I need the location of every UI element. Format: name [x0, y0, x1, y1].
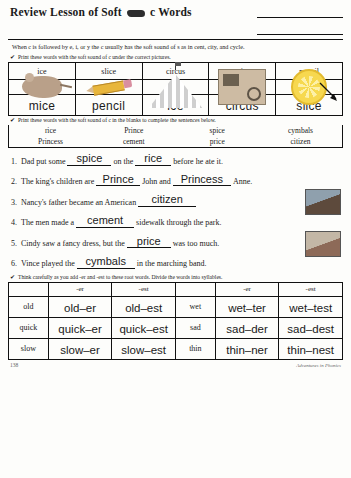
arrow-icon	[318, 82, 340, 104]
picture-answer[interactable]: pencil	[75, 95, 142, 116]
answer-blank[interactable]: rice	[135, 153, 171, 166]
date-line[interactable]	[257, 25, 343, 35]
picture-answer-text: mice	[29, 99, 56, 113]
picture-cell-carriage	[209, 80, 276, 95]
mouse-icon	[9, 80, 75, 94]
suffix-header-blank-right	[175, 282, 215, 296]
picture-cell-circus	[142, 80, 209, 95]
sentence-text-post: sidewalk through the park.	[136, 219, 221, 227]
suffix-answer-text: quick–er	[58, 323, 101, 335]
word-bank-row: rice Prince spice cymbals	[9, 125, 343, 136]
picture-cell-mouse	[9, 80, 76, 95]
suffix-row: quick quick–er quick–est sad sad–der sad…	[9, 317, 343, 338]
suffix-base-word: old	[9, 296, 49, 317]
suffix-answer-text: thin–ner	[226, 344, 268, 356]
direction-one: ✔ Print these words with the soft sound …	[8, 53, 343, 62]
checkmark-icon: ✔	[10, 54, 15, 60]
suffix-answer[interactable]: slow–er	[48, 338, 112, 359]
name-line[interactable]	[257, 8, 343, 18]
sentence-text-post: before he ate it.	[173, 158, 223, 166]
sentence-2: 2. The king's children are Prince John a…	[8, 173, 343, 187]
direction-three: ✔ Think carefully as you add -er and -es…	[8, 273, 343, 282]
suffix-answer[interactable]: old–er	[48, 296, 112, 317]
picture-table: ice slice circus mice pencil	[8, 62, 343, 116]
suffix-answer-text: quick–est	[119, 323, 168, 335]
picture-row	[9, 80, 343, 95]
suffix-header-row: -er -est -er -est	[9, 282, 343, 296]
picture-answer[interactable]: mice	[9, 95, 76, 116]
direction-three-text: Think carefully as you add -er and -est …	[18, 274, 222, 280]
suffix-answer[interactable]: quick–er	[48, 317, 112, 338]
suffix-answer[interactable]: sad–dest	[279, 317, 343, 338]
sentence-text-pre: Dad put some	[21, 158, 65, 166]
sentence-1: 1. Dad put some spice on the rice before…	[8, 152, 343, 166]
checkmark-icon: ✔	[10, 117, 15, 123]
word-bank-row: Princess cement price citizen	[9, 136, 343, 148]
word-bank: rice Prince spice cymbals Princess cemen…	[8, 125, 343, 148]
sentence-text-mid: on the	[113, 158, 133, 166]
suffix-row: old old–er old–est wet wet–ter wet–test	[9, 296, 343, 317]
suffix-base-word: quick	[9, 317, 49, 338]
ink-blob-icon	[127, 10, 145, 17]
picture-cell-pencil	[75, 80, 142, 95]
sentence-text-post: Anne.	[233, 178, 252, 186]
sentence-4: 4. The men made a cement sidewalk throug…	[8, 214, 343, 228]
word-bank-word: Prince	[92, 125, 176, 136]
direction-two-text: Print these words with the soft sound of…	[18, 117, 216, 123]
answer-blank[interactable]: spice	[67, 153, 111, 166]
sentence-number: 6.	[11, 260, 19, 268]
photo-price	[305, 231, 341, 257]
worksheet-page: Review Lesson of Soft c Words When c is …	[0, 0, 351, 478]
carriage-icon	[209, 80, 275, 94]
suffix-answer[interactable]: sad–der	[215, 317, 279, 338]
suffix-answer-text: sad–dest	[287, 323, 334, 335]
suffix-base-word: sad	[175, 317, 215, 338]
suffix-answer[interactable]: old–est	[112, 296, 176, 317]
picture-answer-text: pencil	[92, 99, 125, 113]
suffix-answer[interactable]: thin–nest	[279, 338, 343, 359]
brand-label: Adventures in Phonics	[296, 363, 341, 368]
suffix-answer-text: slow–er	[60, 344, 100, 356]
answer-blank[interactable]: cymbals	[77, 256, 135, 269]
suffix-base-word: wet	[175, 296, 215, 317]
sentence-number: 3.	[11, 199, 19, 207]
sentence-number: 1.	[11, 158, 19, 166]
sentence-number: 2.	[11, 178, 19, 186]
sentence-5: 5. Cindy saw a fancy dress, but the pric…	[8, 235, 343, 249]
word-bank-word: cement	[92, 136, 176, 148]
word-bank-word: rice	[9, 125, 93, 136]
sentence-number: 5.	[11, 240, 19, 248]
page-title-pre: Review Lesson of Soft	[10, 6, 122, 18]
word-bank-word: price	[176, 136, 260, 148]
circus-tent-icon	[143, 80, 209, 94]
suffix-answer-text: old–est	[125, 302, 162, 314]
sentence-text-post: was too much.	[173, 240, 219, 248]
suffix-answer[interactable]: thin–ner	[215, 338, 279, 359]
page-footer: 138 Adventures in Phonics	[8, 360, 343, 368]
suffix-answer[interactable]: wet–test	[279, 296, 343, 317]
answer-blank[interactable]: Prince	[96, 174, 140, 187]
suffix-table: -er -est -er -est old old–er old–est wet…	[8, 282, 343, 360]
suffix-base-word: slow	[9, 338, 49, 359]
answer-blank[interactable]: price	[127, 236, 171, 249]
sentence-text-post: in the marching band.	[137, 260, 207, 268]
suffix-answer[interactable]: quick–est	[112, 317, 176, 338]
suffix-base-word: thin	[175, 338, 215, 359]
page-number: 138	[10, 362, 18, 368]
picture-word: slice	[75, 63, 142, 80]
sentence-text-mid: John and	[142, 178, 171, 186]
suffix-answer-text: slow–est	[121, 344, 166, 356]
suffix-answer-text: thin–nest	[287, 344, 334, 356]
answer-blank[interactable]: Princess	[173, 174, 231, 187]
suffix-header-blank-left	[9, 282, 49, 296]
answer-blank[interactable]: citizen	[138, 194, 196, 207]
header-divider	[8, 39, 343, 40]
suffix-answer[interactable]: slow–est	[112, 338, 176, 359]
suffix-answer[interactable]: wet–ter	[215, 296, 279, 317]
picture-cell-lemon-slice	[276, 80, 343, 95]
suffix-header-er-right: -er	[215, 282, 279, 296]
sentence-text-pre: Nancy's father became an American	[21, 199, 136, 207]
answer-blank[interactable]: cement	[76, 215, 134, 228]
sentence-text-pre: The men made a	[21, 219, 74, 227]
suffix-answer-text: old–er	[64, 302, 96, 314]
